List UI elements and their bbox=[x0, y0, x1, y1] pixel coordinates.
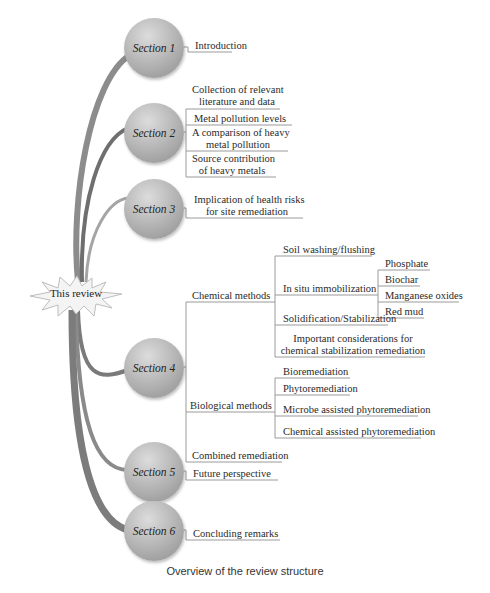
topic-source-line2[interactable]: of heavy metals bbox=[192, 165, 272, 177]
topic-future-perspective[interactable]: Future perspective bbox=[193, 468, 271, 480]
topic-microbe-assisted[interactable]: Microbe assisted phytoremediation bbox=[283, 404, 431, 416]
topic-manganese-oxides[interactable]: Manganese oxides bbox=[385, 290, 463, 302]
topic-introduction[interactable]: Introduction bbox=[195, 40, 247, 52]
topic-combined-remediation[interactable]: Combined remediation bbox=[192, 450, 289, 462]
topic-soil-washing[interactable]: Soil washing/flushing bbox=[283, 244, 375, 256]
topic-health-risks-line1[interactable]: Implication of health risks bbox=[194, 194, 300, 206]
figure-caption: Overview of the review structure bbox=[0, 565, 490, 577]
topic-phytoremediation[interactable]: Phytoremediation bbox=[283, 383, 358, 395]
topic-solidification[interactable]: Solidification/Stabilization bbox=[283, 313, 396, 325]
topic-collection-line2[interactable]: literature and data bbox=[192, 96, 282, 108]
topic-important-line1[interactable]: Important considerations for bbox=[280, 333, 426, 345]
topic-comparison-line1[interactable]: A comparison of heavy bbox=[192, 127, 284, 139]
section-1-label: Section 1 bbox=[133, 42, 175, 54]
section-4-label: Section 4 bbox=[133, 362, 175, 374]
topic-metal-pollution-levels[interactable]: Metal pollution levels bbox=[194, 113, 286, 125]
section-2-label: Section 2 bbox=[133, 127, 175, 139]
topic-collection-line1[interactable]: Collection of relevant bbox=[192, 84, 282, 96]
topic-chemical-methods[interactable]: Chemical methods bbox=[192, 290, 270, 302]
topic-chemical-assisted[interactable]: Chemical assisted phytoremediation bbox=[283, 426, 435, 438]
topic-health-risks-line2[interactable]: for site remediation bbox=[194, 206, 300, 218]
topic-phosphate[interactable]: Phosphate bbox=[385, 258, 428, 270]
topic-bioremediation[interactable]: Bioremediation bbox=[283, 366, 348, 378]
topic-concluding-remarks[interactable]: Concluding remarks bbox=[193, 528, 278, 540]
topic-source-line1[interactable]: Source contribution bbox=[192, 153, 272, 165]
section-3-node[interactable]: Section 3 bbox=[124, 179, 184, 239]
topic-comparison-line2[interactable]: metal pollution bbox=[192, 139, 284, 151]
topic-in-situ-immobilization[interactable]: In situ immobilization bbox=[283, 283, 376, 295]
section-1-node[interactable]: Section 1 bbox=[124, 18, 184, 78]
root-label: This review bbox=[30, 287, 122, 299]
topic-biochar[interactable]: Biochar bbox=[385, 274, 418, 286]
section-5-node[interactable]: Section 5 bbox=[124, 442, 184, 502]
section-6-label: Section 6 bbox=[133, 525, 175, 537]
topic-biological-methods[interactable]: Biological methods bbox=[190, 400, 272, 412]
section-6-node[interactable]: Section 6 bbox=[124, 501, 184, 561]
section-3-label: Section 3 bbox=[133, 203, 175, 215]
section-4-node[interactable]: Section 4 bbox=[124, 338, 184, 398]
section-5-label: Section 5 bbox=[133, 466, 175, 478]
section-2-node[interactable]: Section 2 bbox=[124, 103, 184, 163]
topic-important-line2[interactable]: chemical stabilization remediation bbox=[280, 345, 426, 357]
